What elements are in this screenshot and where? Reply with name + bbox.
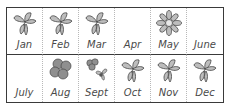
month-cell-mar: Mar [79, 8, 115, 55]
berries-and-leaves-icon [84, 57, 110, 83]
month-cell-dec: Dec [187, 55, 223, 102]
month-label: Nov [151, 87, 186, 98]
month-label: Mar [79, 39, 114, 50]
leaves-icon [84, 10, 110, 36]
month-label: May [151, 39, 186, 50]
seasonal-calendar-grid: Jan Feb Mar Apr May June July Aug Sept O… [6, 7, 224, 103]
flower-icon [156, 10, 182, 36]
month-cell-may: May [151, 8, 187, 55]
leaves-icon [120, 57, 146, 83]
month-label: Dec [187, 87, 223, 98]
berries-icon [48, 57, 74, 83]
month-label: Apr [115, 39, 150, 50]
leaves-icon [48, 10, 74, 36]
month-cell-aug: Aug [43, 55, 79, 102]
month-label: July [7, 87, 42, 98]
month-label: Feb [43, 39, 78, 50]
month-cell-july: July [7, 55, 43, 102]
month-label: Aug [43, 87, 78, 98]
month-cell-apr: Apr [115, 8, 151, 55]
month-label: Sept [79, 87, 114, 98]
month-label: Oct [115, 87, 150, 98]
month-label: June [187, 39, 223, 50]
month-cell-oct: Oct [115, 55, 151, 102]
month-cell-jan: Jan [7, 8, 43, 55]
month-cell-june: June [187, 8, 223, 55]
leaves-icon [192, 57, 218, 83]
month-cell-sept: Sept [79, 55, 115, 102]
month-cell-nov: Nov [151, 55, 187, 102]
month-cell-feb: Feb [43, 8, 79, 55]
leaves-icon [156, 57, 182, 83]
leaves-icon [12, 10, 38, 36]
month-label: Jan [7, 39, 42, 50]
